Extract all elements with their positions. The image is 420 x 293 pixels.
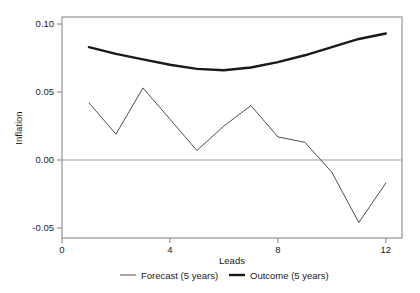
- x-tick-label: 12: [381, 244, 392, 255]
- y-tick-label: 0.00: [36, 154, 55, 165]
- x-tick-label: 8: [275, 244, 280, 255]
- legend-label-outcome: Outcome (5 years): [250, 270, 329, 281]
- legend-label-forecast: Forecast (5 years): [141, 270, 218, 281]
- y-tick-label: -0.05: [32, 222, 54, 233]
- x-tick-label: 0: [59, 244, 64, 255]
- y-tick-label: 0.10: [36, 18, 55, 29]
- inflation-leads-chart: -0.050.000.050.10 04812 Leads Inflation …: [0, 0, 420, 293]
- x-axis-title: Leads: [219, 255, 245, 266]
- y-axis-title: Inflation: [13, 111, 24, 144]
- y-tick-label: 0.05: [36, 86, 55, 97]
- x-tick-label: 4: [167, 244, 172, 255]
